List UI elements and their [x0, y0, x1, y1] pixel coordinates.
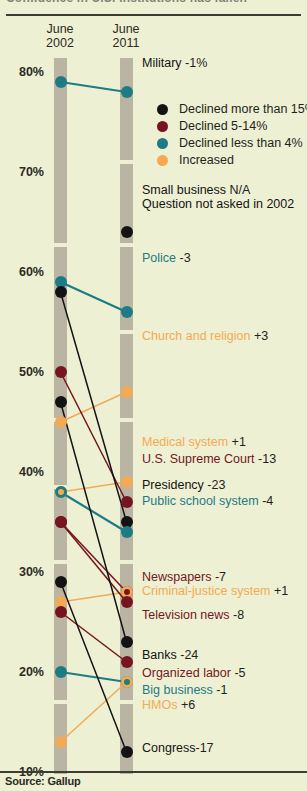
series-label: Presidency -23	[142, 478, 225, 492]
data-point	[55, 576, 67, 588]
source-note: Source: Gallup	[5, 775, 80, 787]
series-label-delta: -4	[259, 494, 274, 508]
series-label: Public school system -4	[142, 494, 273, 508]
series-label: Church and religion +3	[142, 329, 268, 343]
series-label-delta: -1%	[182, 56, 208, 70]
chart-canvas: Confidence in U.S. institutions has fall…	[0, 0, 307, 791]
connector-television-news	[61, 522, 127, 602]
series-label: Criminal-justice system +1	[142, 584, 288, 598]
connector-public-school-system	[61, 492, 127, 532]
series-label-text: Medical system	[142, 435, 228, 449]
data-point	[55, 516, 67, 528]
data-point	[55, 666, 67, 678]
series-label-delta: -3	[176, 251, 191, 265]
series-label-text: HMOs	[142, 698, 177, 712]
series-label-text: Criminal-justice system	[142, 584, 271, 598]
series-label-text: U.S. Supreme Court	[142, 452, 255, 466]
series-label-text: Congress	[142, 741, 196, 755]
series-label: Big business -1	[142, 683, 227, 697]
data-point	[55, 76, 67, 88]
series-label-text: Banks	[142, 648, 177, 662]
series-label: Military -1%	[142, 56, 207, 70]
data-point	[121, 656, 133, 668]
y-tick-label: 20%	[6, 665, 44, 679]
series-label: HMOs +6	[142, 698, 195, 712]
series-label-text: Police	[142, 251, 176, 265]
series-label: Congress-17	[142, 741, 214, 755]
data-point	[55, 416, 67, 428]
legend-swatch-black	[157, 104, 168, 115]
legend-swatch-teal	[157, 138, 168, 149]
series-label-delta: -5	[231, 666, 246, 680]
data-point	[121, 386, 133, 398]
legend-label: Declined more than 15%	[179, 101, 307, 117]
data-point	[121, 746, 133, 758]
data-point	[55, 606, 67, 618]
data-point	[55, 486, 67, 498]
data-point	[121, 636, 133, 648]
series-label: Question not asked in 2002	[142, 197, 294, 211]
series-label-text: Military	[142, 56, 182, 70]
y-tick-label: 60%	[6, 265, 44, 279]
series-label-delta: -8	[230, 608, 245, 622]
series-label: Banks -24	[142, 648, 198, 662]
connector-organized-labor	[61, 612, 127, 662]
y-tick-label: 70%	[6, 165, 44, 179]
series-label-text: Big business	[142, 683, 213, 697]
data-point	[121, 306, 133, 318]
data-point	[121, 476, 133, 488]
series-label: Medical system +1	[142, 435, 246, 449]
y-tick-label: 40%	[6, 465, 44, 479]
series-label: Television news -8	[142, 608, 244, 622]
series-label-delta: +3	[250, 329, 268, 343]
connector-hmos	[61, 682, 127, 742]
series-label-text: Small business	[142, 183, 226, 197]
series-label-text: Presidency	[142, 478, 204, 492]
data-point	[121, 226, 133, 238]
data-point	[55, 396, 67, 408]
connector-newspapers	[61, 522, 127, 592]
connector-police	[61, 282, 127, 312]
connector-big-business	[61, 672, 127, 682]
series-label-delta: +6	[177, 698, 195, 712]
data-point	[121, 496, 133, 508]
series-label-text: Church and religion	[142, 329, 250, 343]
legend-swatch-orange	[157, 155, 168, 166]
series-label-delta: -24	[177, 648, 199, 662]
data-point	[55, 736, 67, 748]
series-label-text: Organized labor	[142, 666, 231, 680]
series-label: Small business N/A	[142, 183, 250, 197]
connector-criminal-justice-system	[61, 592, 127, 602]
series-label: U.S. Supreme Court -13	[142, 452, 276, 466]
series-label-delta: -7	[211, 570, 226, 584]
bottom-rule	[0, 771, 307, 773]
y-tick-label: 80%	[6, 65, 44, 79]
series-label: Organized labor -5	[142, 666, 246, 680]
series-label-delta: +1	[271, 584, 289, 598]
series-label-text: Public school system	[142, 494, 259, 508]
data-point	[55, 286, 67, 298]
series-label-text: Question not asked in 2002	[142, 197, 294, 211]
data-point	[55, 366, 67, 378]
series-label-delta: -17	[196, 741, 214, 755]
data-point	[121, 526, 133, 538]
series-label: Police -3	[142, 251, 191, 265]
y-tick-label: 50%	[6, 365, 44, 379]
legend-swatch-darkred	[157, 121, 168, 132]
legend-label: Declined 5-14%	[179, 118, 267, 134]
series-label-delta: +1	[228, 435, 246, 449]
legend-label: Declined less than 4%	[179, 135, 303, 151]
series-label-delta: N/A	[226, 183, 250, 197]
connector-military	[61, 82, 127, 92]
series-label-text: Newspapers	[142, 570, 211, 584]
data-point	[121, 676, 133, 688]
y-tick-label: 30%	[6, 565, 44, 579]
series-label-delta: -13	[255, 452, 277, 466]
series-label-delta: -1	[213, 683, 228, 697]
legend-label: Increased	[179, 152, 234, 168]
data-point	[121, 596, 133, 608]
series-label: Newspapers -7	[142, 570, 226, 584]
series-label-text: Television news	[142, 608, 230, 622]
data-point	[121, 86, 133, 98]
series-label-delta: -23	[204, 478, 226, 492]
